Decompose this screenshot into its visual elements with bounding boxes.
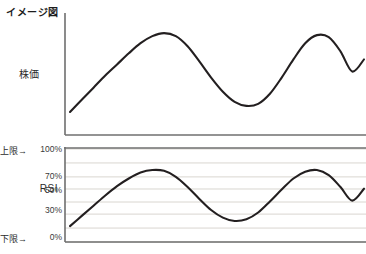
rsi-chart [64, 147, 366, 244]
rsi-tick-labels: 100% 70% 50% 30% 0% [0, 0, 62, 254]
rsi-tick-100: 100% [2, 144, 62, 154]
rsi-line [70, 170, 364, 226]
rsi-tick-30: 30% [2, 205, 62, 215]
rsi-tick-70: 70% [2, 171, 62, 181]
price-chart-svg [64, 13, 366, 136]
rsi-gridlines [65, 149, 366, 242]
rsi-tick-50: 50% [2, 185, 62, 195]
price-chart [64, 13, 366, 136]
rsi-tick-0: 0% [2, 232, 62, 242]
diagram-root: イメージ図 株価 RSI 上限→ 下限→ 100% 70% 50% 30% 0% [0, 0, 366, 254]
price-line [70, 33, 364, 112]
rsi-chart-svg [64, 147, 366, 244]
